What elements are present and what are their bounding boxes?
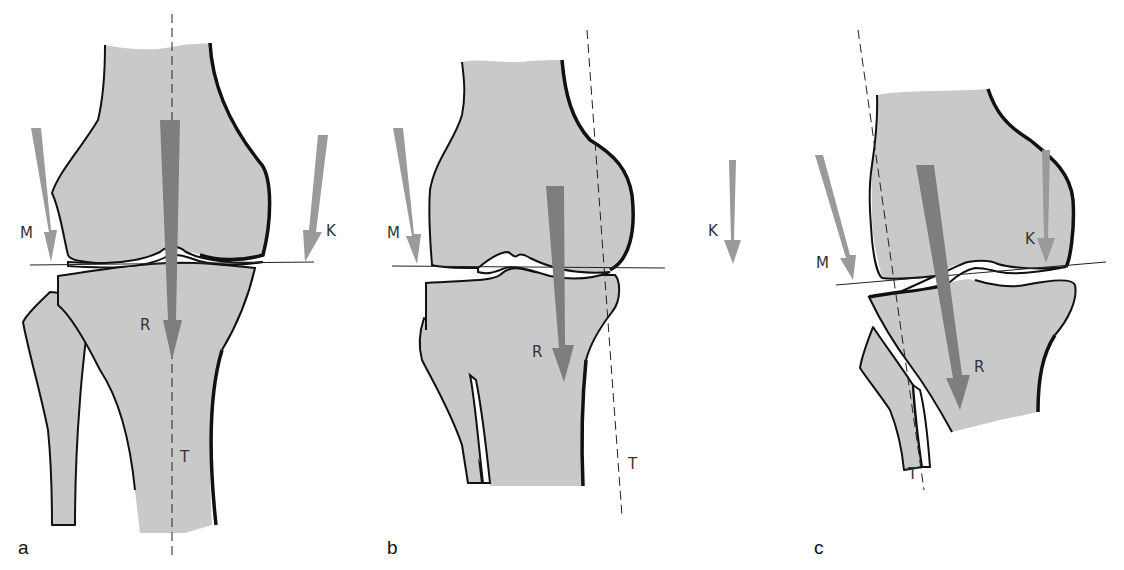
label-k: K (1025, 230, 1036, 248)
label-k: K (326, 222, 337, 240)
panel-label-c: c (814, 537, 824, 558)
knee-load-diagram: M K R T a M K R T b (0, 0, 1124, 570)
femur-bone (52, 43, 270, 265)
panel-label-a: a (18, 537, 29, 558)
label-k: K (708, 222, 719, 240)
label-t: T (907, 465, 918, 483)
panel-b: M K R T b (387, 30, 741, 558)
label-r: R (140, 316, 150, 334)
force-arrow-m (393, 128, 421, 264)
label-r: R (974, 358, 984, 376)
tibia-bone (58, 263, 255, 533)
label-t: T (627, 455, 638, 473)
panel-label-b: b (387, 537, 398, 558)
tibia-bone (426, 268, 619, 486)
tibia-outline-right (582, 360, 586, 486)
label-m: M (816, 254, 829, 272)
panel-a: M K R T a (18, 14, 337, 560)
panel-c: M K R T c (814, 30, 1106, 558)
label-m: M (20, 224, 33, 242)
label-m: M (387, 224, 400, 242)
force-arrow-k (303, 135, 328, 262)
label-r: R (532, 343, 542, 361)
label-t: T (179, 448, 190, 466)
force-arrow-k (724, 160, 741, 264)
